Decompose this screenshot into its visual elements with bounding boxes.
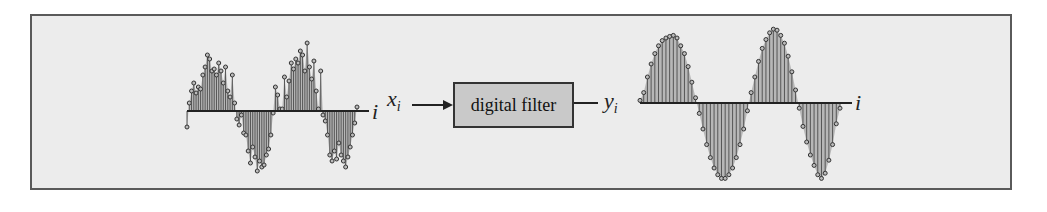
filter-label: digital filter — [471, 95, 556, 116]
output-signal-plot — [638, 27, 852, 180]
digital-filter-box: digital filter — [453, 82, 574, 128]
output-signal-label: yi — [604, 88, 618, 114]
arrowhead-icon — [443, 100, 453, 110]
input-signal-plot — [185, 41, 369, 173]
input-arrow — [412, 100, 453, 110]
output-axis-label: i — [855, 90, 861, 116]
input-signal-label: xi — [387, 86, 401, 112]
input-axis-label: i — [372, 99, 378, 125]
